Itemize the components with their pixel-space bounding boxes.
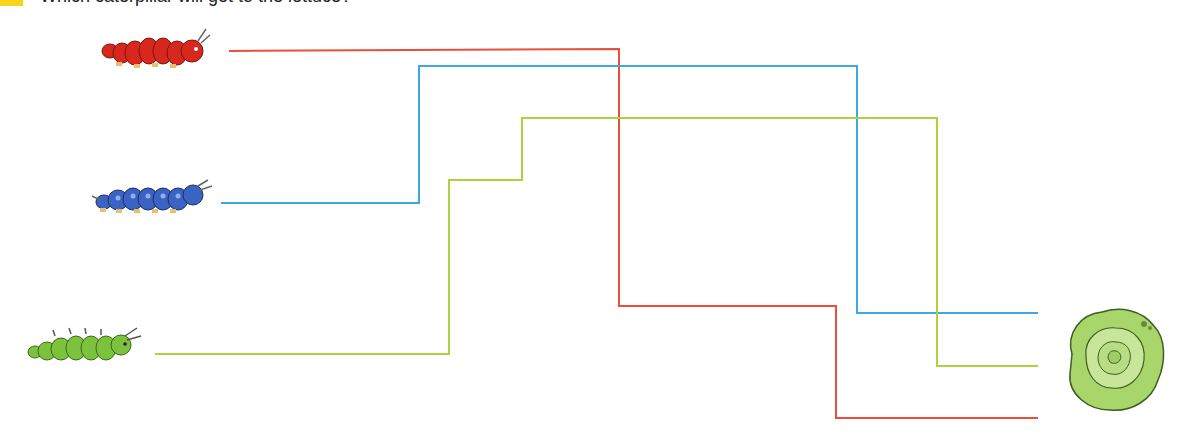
green-path [155,118,1038,366]
red-caterpillar-icon[interactable] [102,29,210,68]
maze-puzzle: Which caterpillar will get to the lettuc… [0,0,1202,447]
blue-path [221,66,1038,313]
red-path [229,49,1038,418]
green-caterpillar-icon[interactable] [28,328,141,360]
blue-caterpillar-icon[interactable] [92,180,212,213]
lettuce-icon[interactable] [1070,309,1164,410]
paths [155,49,1038,418]
